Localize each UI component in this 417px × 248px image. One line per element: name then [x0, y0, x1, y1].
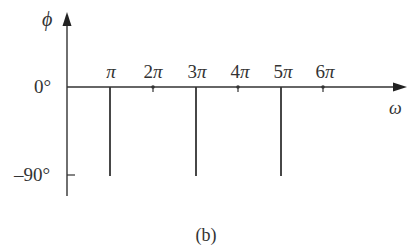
marker-4pi [236, 85, 240, 92]
x-tick-label-3pi: 3π [187, 62, 206, 81]
marker-6pi [321, 85, 325, 92]
x-tick-label-5pi: 5π [273, 62, 292, 81]
x-tick-label-pi: π [106, 62, 116, 81]
x-tick-label-2pi: 2π [143, 62, 162, 81]
x-tick-label-6pi: 6π [315, 62, 334, 81]
phase-spectrum-plot [0, 0, 417, 248]
y-tick-label-minus-90: –90° [14, 165, 50, 184]
marker-2pi [151, 85, 155, 92]
y-tick-label-0: 0° [34, 77, 51, 96]
y-axis-arrow-icon [63, 12, 72, 26]
figure-caption: (b) [196, 226, 217, 244]
x-axis-label: ω [389, 99, 402, 117]
y-axis-label: ϕ [42, 9, 52, 29]
x-axis-arrow-icon [393, 83, 407, 92]
x-tick-label-4pi: 4π [230, 62, 249, 81]
